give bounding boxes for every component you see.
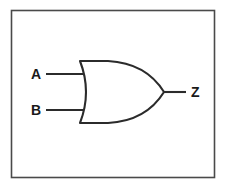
logic-gate-figure: A B Z <box>0 0 226 188</box>
input-label-b: B <box>31 102 41 118</box>
output-label-z: Z <box>191 84 200 100</box>
input-label-a: A <box>31 66 41 82</box>
or-gate-diagram-canvas: A B Z <box>0 0 226 188</box>
